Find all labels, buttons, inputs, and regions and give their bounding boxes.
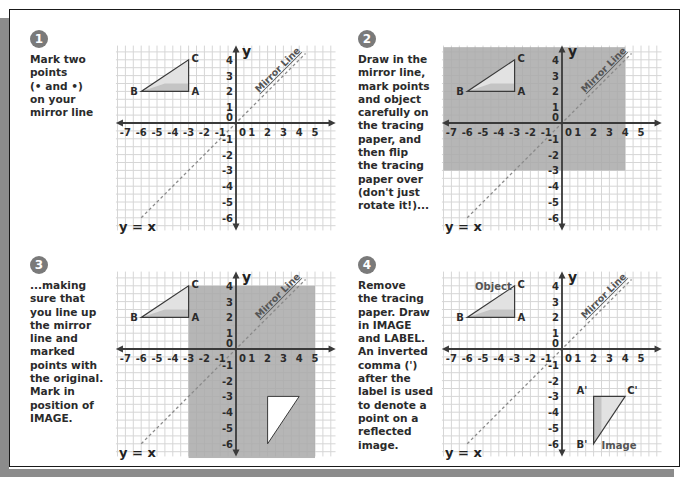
- y-tick-label: -4: [548, 407, 559, 418]
- y-tick-label: -5: [548, 423, 559, 434]
- y-tick-label: -2: [548, 150, 559, 161]
- x-tick-label: 3: [606, 127, 613, 138]
- coordinate-graph: ABCObjectA'B'C'ImageMirror Linexy-7-6-5-…: [422, 254, 662, 464]
- equation-label: y = x: [119, 445, 156, 460]
- y-tick-label: 0: [226, 338, 233, 349]
- y-tick-label: -1: [548, 360, 559, 371]
- y-axis-label: y: [568, 269, 577, 285]
- y-tick-label: -2: [222, 376, 233, 387]
- x-tick-label: 2: [590, 353, 597, 364]
- y-tick-label: -6: [222, 213, 233, 224]
- image-triangle-shade: [594, 396, 602, 443]
- x-tick-label: -2: [525, 127, 536, 138]
- y-tick-label: -6: [222, 439, 233, 450]
- x-tick-label: 5: [638, 127, 645, 138]
- x-tick-label: 0: [239, 127, 246, 138]
- y-tick-label: 2: [226, 86, 233, 97]
- point-label-c-prime: C': [627, 385, 637, 396]
- point-label-b: B: [130, 86, 138, 97]
- step-panel-4: 4 Remove the tracing paper. Draw in IMAG…: [338, 240, 673, 468]
- frame-shadow-left: [0, 18, 9, 470]
- x-tick-label: -5: [151, 353, 162, 364]
- x-tick-label: -7: [120, 353, 131, 364]
- y-axis-arrow-down: [559, 449, 566, 456]
- coordinate-graph: ABCMirror Linexy-7-6-5-4-3-2-10123454321…: [96, 254, 336, 464]
- x-tick-label: -7: [120, 127, 131, 138]
- x-tick-label: -5: [477, 353, 488, 364]
- y-tick-label: -3: [548, 165, 559, 176]
- x-tick-label: -2: [199, 127, 210, 138]
- x-tick-label: 1: [248, 353, 255, 364]
- point-label-b: B: [130, 312, 138, 323]
- point-label-c: C: [192, 279, 199, 290]
- y-tick-label: 4: [552, 281, 559, 292]
- y-tick-label: 0: [226, 112, 233, 123]
- y-axis-label: y: [242, 43, 251, 59]
- x-tick-label: 4: [622, 353, 629, 364]
- y-tick-label: -3: [548, 391, 559, 402]
- x-tick-label: 2: [264, 353, 271, 364]
- y-tick-label: 2: [552, 312, 559, 323]
- step-panel-1: 1 Mark two points (• and •) on your mirr…: [10, 10, 345, 238]
- x-axis-arrow-right: [655, 346, 662, 353]
- y-axis-arrow-down: [559, 223, 566, 230]
- y-axis-arrow-up: [233, 272, 240, 279]
- point-label-a-prime: A': [577, 385, 588, 396]
- x-tick-label: 5: [312, 127, 319, 138]
- point-label-a: A: [192, 86, 200, 97]
- x-tick-label: -6: [136, 127, 147, 138]
- step-panel-3: 3 ...making sure that you line up the mi…: [10, 240, 345, 468]
- step-number-badge: 4: [358, 256, 376, 274]
- x-tick-label: -5: [151, 127, 162, 138]
- x-tick-label: 4: [296, 353, 303, 364]
- point-label-a: A: [518, 86, 526, 97]
- y-tick-label: -2: [222, 150, 233, 161]
- step-panel-2: 2 Draw in the mirror line, mark points a…: [338, 10, 673, 238]
- x-tick-label: 2: [590, 127, 597, 138]
- x-tick-label: 5: [638, 353, 645, 364]
- image-label: Image: [602, 440, 637, 451]
- y-tick-label: -4: [222, 181, 233, 192]
- tracing-paper-overlay: [189, 286, 315, 458]
- x-tick-label: 0: [565, 127, 572, 138]
- x-tick-label: 1: [248, 127, 255, 138]
- y-axis-label: y: [242, 269, 251, 285]
- y-tick-label: -2: [548, 376, 559, 387]
- y-tick-label: -4: [222, 407, 233, 418]
- y-tick-label: -1: [222, 134, 233, 145]
- y-tick-label: -1: [548, 134, 559, 145]
- x-tick-label: 3: [280, 127, 287, 138]
- x-tick-label: -4: [167, 353, 178, 364]
- x-tick-label: -6: [462, 353, 473, 364]
- y-tick-label: 2: [226, 312, 233, 323]
- x-tick-label: 5: [312, 353, 319, 364]
- y-tick-label: -1: [222, 360, 233, 371]
- step-number-badge: 1: [30, 30, 48, 48]
- x-tick-label: 3: [280, 353, 287, 364]
- x-tick-label: 2: [264, 127, 271, 138]
- x-tick-label: -5: [477, 127, 488, 138]
- x-tick-label: -3: [183, 127, 194, 138]
- x-axis-arrow-right: [329, 120, 336, 127]
- y-tick-label: 3: [552, 71, 559, 82]
- point-label-c: C: [192, 53, 199, 64]
- object-label: Object: [475, 281, 512, 292]
- point-label-b: B: [456, 86, 464, 97]
- x-axis-arrow-left: [442, 346, 449, 353]
- x-tick-label: -4: [493, 353, 504, 364]
- point-label-a: A: [192, 312, 200, 323]
- y-tick-label: 3: [226, 297, 233, 308]
- y-tick-label: -6: [548, 439, 559, 450]
- y-tick-label: -3: [222, 165, 233, 176]
- y-tick-label: -6: [548, 213, 559, 224]
- y-axis-arrow-up: [233, 46, 240, 53]
- x-tick-label: -3: [509, 127, 520, 138]
- y-axis-label: y: [568, 43, 577, 59]
- tracing-paper-overlay: [444, 47, 626, 170]
- x-axis-arrow-right: [329, 346, 336, 353]
- x-tick-label: -7: [446, 127, 457, 138]
- x-tick-label: 0: [239, 353, 246, 364]
- step-number-badge: 3: [30, 256, 48, 274]
- x-tick-label: -4: [493, 127, 504, 138]
- point-label-c: C: [518, 279, 525, 290]
